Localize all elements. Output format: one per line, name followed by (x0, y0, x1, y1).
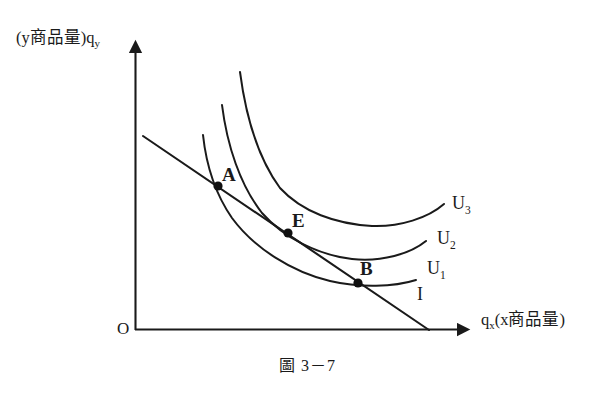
point-label-a: A (222, 165, 236, 184)
curve-label-u3: U3 (452, 194, 471, 216)
point-label-b: B (360, 259, 373, 278)
curve-label-u1: U1 (427, 259, 446, 281)
figure-caption: 圖 3－7 (0, 352, 615, 376)
indifference-curve-u3 (240, 72, 444, 226)
point-b-marker (353, 278, 362, 287)
curve-label-u2-subscript: 2 (450, 239, 456, 251)
x-axis-title-text: q (481, 310, 489, 329)
curve-label-u1-subscript: 1 (440, 269, 446, 281)
curve-label-u2-text: U (437, 228, 450, 248)
curve-label-u3-text: U (452, 193, 465, 213)
x-axis-title-suffix: (x商品量) (495, 310, 565, 329)
origin-label: O (117, 320, 129, 337)
curve-label-u3-subscript: 3 (465, 204, 471, 216)
y-axis-title-text: (y商品量)q (16, 28, 95, 47)
y-axis-title: (y商品量)qy (16, 30, 100, 49)
y-axis-title-subscript: y (95, 37, 101, 49)
curve-label-u1-text: U (427, 258, 440, 278)
point-label-e: E (292, 211, 305, 230)
curve-label-u2: U2 (437, 229, 456, 251)
x-axis-title: qx(x商品量) (481, 312, 565, 331)
budget-line-label: I (417, 285, 423, 303)
indifference-curve-plot (0, 0, 615, 399)
figure-root: (y商品量)qy qx(x商品量) A E B U3 U2 U1 I O 圖 3… (0, 0, 615, 399)
